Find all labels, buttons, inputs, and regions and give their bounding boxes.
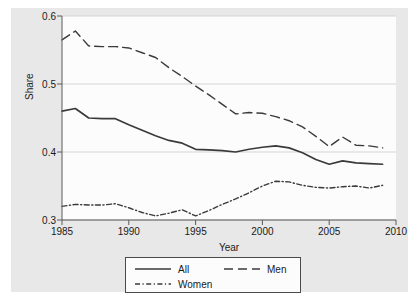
y-axis-tick-labels: 0.30.40.50.6 bbox=[26, 16, 56, 220]
axis-lines bbox=[62, 16, 396, 220]
legend-label: All bbox=[178, 264, 189, 275]
figure-background: 0.30.40.50.6 198519901995200020052010 Sh… bbox=[11, 8, 408, 292]
legend-label: Men bbox=[267, 264, 286, 275]
legend-key-men bbox=[223, 263, 261, 275]
legend-item-men[interactable]: Men bbox=[223, 261, 286, 277]
y-tick-label: 0.5 bbox=[42, 79, 56, 90]
x-axis-title: Year bbox=[62, 242, 396, 253]
y-tick-label: 0.3 bbox=[42, 215, 56, 226]
x-tick-label: 2000 bbox=[251, 226, 273, 237]
legend-item-all[interactable]: All bbox=[134, 261, 189, 277]
legend-key-women bbox=[134, 278, 172, 290]
x-tick-label: 2005 bbox=[318, 226, 340, 237]
y-tick-label: 0.6 bbox=[42, 11, 56, 22]
y-axis-title: Share bbox=[24, 73, 35, 100]
legend-label: Women bbox=[178, 279, 212, 290]
x-axis-tick-labels: 198519901995200020052010 bbox=[62, 220, 396, 240]
x-tick-label: 1990 bbox=[118, 226, 140, 237]
x-tick-label: 1985 bbox=[51, 226, 73, 237]
y-tick-label: 0.4 bbox=[42, 147, 56, 158]
legend-item-women[interactable]: Women bbox=[134, 276, 212, 292]
legend-key-all bbox=[134, 263, 172, 275]
x-tick-label: 2010 bbox=[385, 226, 407, 237]
plot-wrapper: 0.30.40.50.6 198519901995200020052010 Sh… bbox=[62, 16, 396, 220]
x-tick-label: 1995 bbox=[184, 226, 206, 237]
chart-legend: AllMenWomen bbox=[125, 257, 301, 293]
